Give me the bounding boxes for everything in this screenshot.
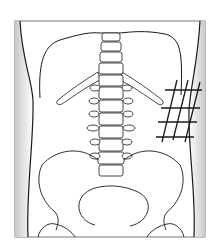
- diagram-canvas: Abdominal region diagram with hatched ar…: [0, 0, 219, 250]
- abdomen-diagram: [0, 0, 219, 250]
